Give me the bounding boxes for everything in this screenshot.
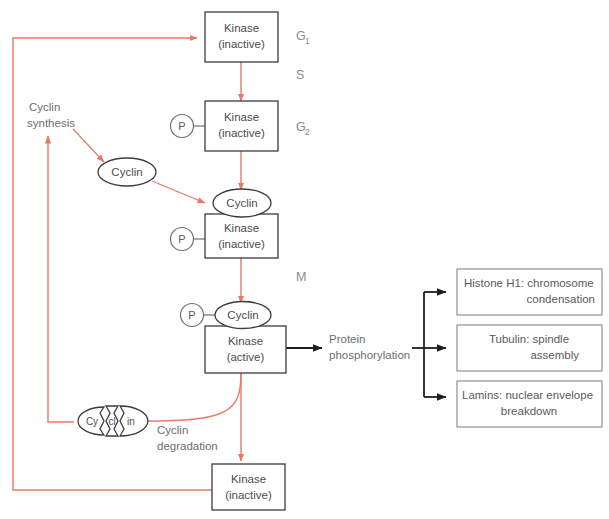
phase-s-base: S [296,68,304,82]
kinase-mid-box [205,214,278,258]
kinase-g1-line2: (inactive) [218,38,265,50]
protein-phosphorylation-line1: Protein [329,333,365,345]
phase-g2-sub: 2 [305,127,310,137]
kinase-g2-box [205,101,278,151]
outcome-box-lamins[interactable]: Lamins: nuclear envelope breakdown [457,381,602,427]
phase-g1-sub: 1 [305,36,310,46]
kinase-g1-line1: Kinase [224,22,259,34]
cyclin-fragment-2-label: cl [108,416,115,427]
outcome-histone-line1: Histone H1: chromosome [464,277,594,289]
cyclin-degradation-line2: degradation [157,440,218,452]
outcome-tubulin-rect [457,325,602,371]
kinase-active-line1: Kinase [228,335,263,347]
arrow-cyclin-to-complex [152,181,205,203]
cyclin-fragment-1-label: Cy [86,416,98,427]
kinase-active-box [205,326,286,373]
kinase-mid-line2: (inactive) [218,238,265,250]
outcome-histone-line2: condensation [527,293,595,305]
kinase-g1-box [205,12,278,62]
outcome-lamins-rect [457,381,602,427]
diagram-canvas: Kinase (inactive) P Kinase (inactive) Cy… [0,0,609,519]
label-protein-phosphorylation: Protein phosphorylation [329,333,410,361]
phosphate-g2-label: P [178,120,185,132]
node-kinase-bottom[interactable]: Kinase (inactive) [212,464,285,510]
cyclin-synthesis-line1: Cyclin [29,101,60,113]
node-phosphate-active[interactable]: P [181,304,204,327]
phase-label-s: S [296,68,304,82]
cyclin-free-label: Cyclin [111,166,142,178]
outcome-lamins-line1: Lamins: nuclear envelope [462,389,593,401]
node-cyclin-bound-mid[interactable]: Cyclin [213,189,271,217]
node-kinase-active[interactable]: Kinase (active) [205,326,286,373]
node-cyclin-degraded[interactable]: Cy cl in [78,406,148,436]
cyclin-bound-active-label: Cyclin [227,309,258,321]
node-phosphate-g2[interactable]: P [171,115,194,138]
node-cyclin-free[interactable]: Cyclin [98,158,156,186]
cyclin-degradation-line1: Cyclin [157,424,188,436]
cyclin-bound-mid-label: Cyclin [226,197,257,209]
node-kinase-g2[interactable]: Kinase (inactive) [205,101,278,151]
kinase-g2-line1: Kinase [224,111,259,123]
kinase-g2-line2: (inactive) [218,127,265,139]
kinase-mid-line1: Kinase [224,222,259,234]
node-kinase-mid[interactable]: Kinase (inactive) [205,214,278,258]
cyclin-fragment-3-label: in [127,416,135,427]
arrow-cyclin-degradation [133,373,241,421]
phase-m-base: M [296,270,306,284]
kinase-bottom-box [212,464,285,510]
kinase-bottom-line1: Kinase [231,473,266,485]
node-cyclin-bound-active[interactable]: Cyclin [215,302,271,329]
phase-label-m: M [296,270,306,284]
node-kinase-g1[interactable]: Kinase (inactive) [205,12,278,62]
outcome-histone-rect [457,269,602,315]
phosphate-mid-label: P [178,233,185,245]
protein-phosphorylation-line2: phosphorylation [329,349,410,361]
cyclin-synthesis-line2: synthesis [27,117,75,129]
outcome-lamins-line2: breakdown [501,405,557,417]
phase-label-g2: G 2 [296,120,310,137]
outcome-tubulin-line2: assembly [530,349,579,361]
arrow-synthesis-to-cyclin [73,129,104,162]
phosphate-active-label: P [188,309,195,321]
pathway-svg: Kinase (inactive) P Kinase (inactive) Cy… [0,0,609,519]
phase-label-g1: G 1 [296,29,310,46]
feedback-loop-cyclin-synthesis [48,136,74,422]
outcome-box-histone[interactable]: Histone H1: chromosome condensation [457,269,602,315]
label-cyclin-synthesis: Cyclin synthesis [27,101,75,129]
node-phosphate-mid[interactable]: P [171,228,194,251]
outcome-tubulin-line1: Tubulin: spindle [489,333,569,345]
kinase-bottom-line2: (inactive) [225,489,272,501]
label-cyclin-degradation: Cyclin degradation [157,424,218,452]
outcome-box-tubulin[interactable]: Tubulin: spindle assembly [457,325,602,371]
kinase-active-line2: (active) [227,351,265,363]
